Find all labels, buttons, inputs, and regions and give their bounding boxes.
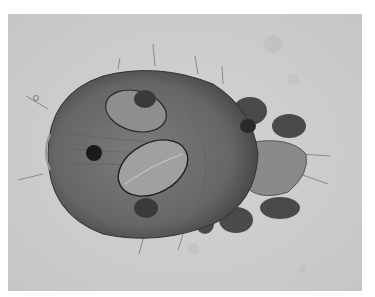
dark-spot [86,145,102,161]
microscopy-photo [8,14,362,291]
mite-illustration [8,14,362,291]
